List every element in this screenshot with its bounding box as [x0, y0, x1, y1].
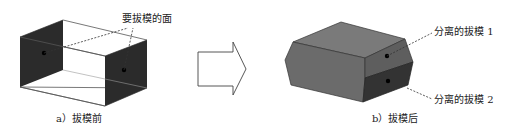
- annotation-split-draft-2: 分离的拔模 2: [434, 94, 494, 106]
- annotation-split-draft-1: 分离的拔模 1: [434, 26, 494, 38]
- caption-before-draft: a）拔模前: [56, 113, 102, 125]
- right-arrow-icon: [198, 42, 246, 95]
- annotation-faces-to-draft: 要拔模的面: [122, 13, 172, 25]
- caption-after-draft: b）拔模后: [372, 113, 418, 125]
- box-before-draft: [20, 20, 147, 106]
- box-after-draft: [285, 22, 432, 102]
- left-dark-face: [20, 20, 63, 87]
